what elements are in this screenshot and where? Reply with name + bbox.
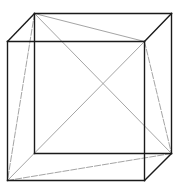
diagonal-bbr-fbl	[8, 154, 172, 181]
edge-fbr-bbr	[145, 154, 172, 181]
edge-ftr-btr	[145, 14, 172, 42]
diagonal-ftr-fbl	[8, 42, 145, 181]
diagonal-btl-ftr	[35, 14, 145, 42]
diagonal-btl-fbl	[8, 14, 35, 181]
cube-diagram	[0, 0, 181, 189]
diagonal-ftr-bbr	[145, 42, 172, 154]
